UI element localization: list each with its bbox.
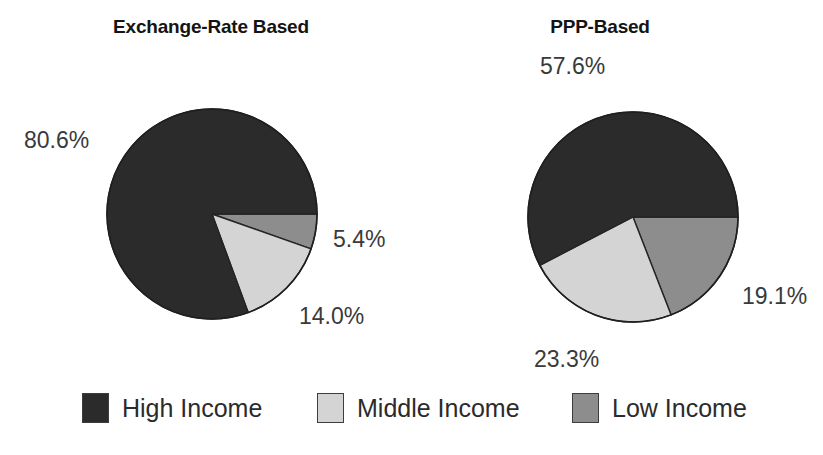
legend-swatch-high-income-icon — [82, 393, 109, 423]
right-label-low-income: 19.1% — [742, 283, 807, 310]
legend-swatch-middle-income-icon — [317, 393, 344, 423]
legend-label-middle-income: Middle Income — [357, 396, 520, 421]
left-label-middle-income: 14.0% — [299, 303, 364, 330]
right-label-high-income: 57.6% — [540, 53, 605, 80]
left-pie-exchange-rate-based — [106, 108, 318, 320]
legend-label-high-income: High Income — [122, 396, 262, 421]
legend-item-low-income: Low Income — [572, 388, 747, 428]
legend-item-middle-income: Middle Income — [317, 388, 520, 428]
right-chart-title: PPP-Based — [450, 16, 750, 38]
legend-swatch-low-income-icon — [572, 393, 599, 423]
left-label-low-income: 5.4% — [333, 226, 385, 253]
left-chart-title: Exchange-Rate Based — [61, 16, 361, 38]
right-label-middle-income: 23.3% — [534, 346, 599, 373]
legend-label-low-income: Low Income — [612, 396, 747, 421]
legend-item-high-income: High Income — [82, 388, 262, 428]
legend: High Income Middle Income Low Income — [0, 388, 823, 436]
pie-chart-figure: Exchange-Rate Based 80.6% 5.4% 14.0% PPP… — [0, 0, 823, 455]
right-pie-ppp-based — [527, 111, 739, 323]
left-label-high-income: 80.6% — [24, 127, 89, 154]
